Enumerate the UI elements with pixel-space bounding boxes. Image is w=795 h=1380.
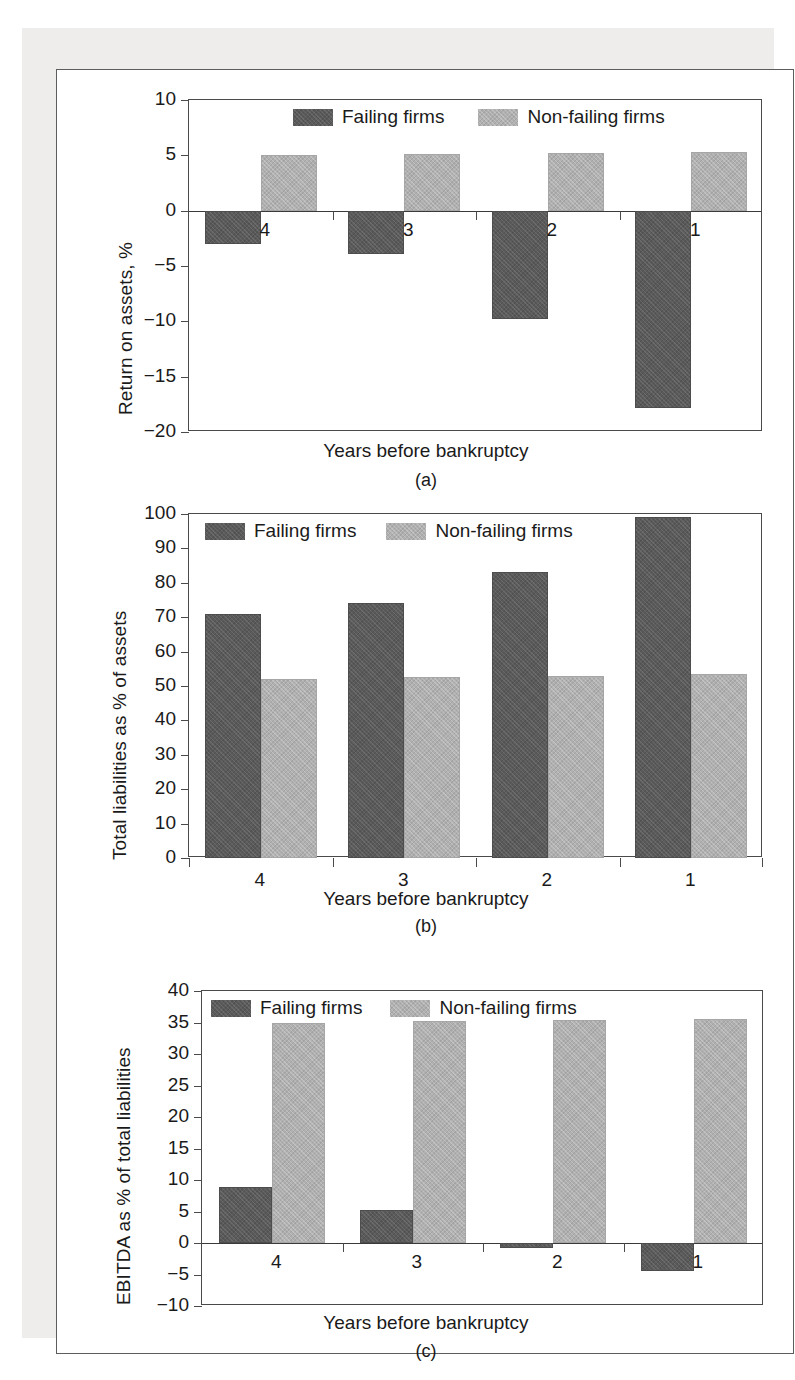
bar-failing-firms-year-2 (492, 572, 548, 858)
bar-failing-firms-year-4 (205, 614, 261, 858)
bar-non-failing-firms-year-4 (261, 679, 317, 858)
x-category-label: 2 (541, 869, 552, 891)
y-tick-mark (194, 1212, 202, 1213)
x-category-label: 2 (552, 1251, 563, 1273)
x-category-label: 3 (411, 1251, 422, 1273)
y-tick-label: 5 (106, 143, 176, 165)
bar-failing-firms-year-2 (500, 1243, 553, 1248)
legend-label-failing: Failing firms (254, 520, 356, 542)
x-category-label: 1 (692, 1251, 703, 1273)
bar-non-failing-firms-year-2 (548, 153, 604, 211)
y-tick-mark (194, 1149, 202, 1150)
x-category-label: 4 (254, 869, 265, 891)
y-tick-mark (194, 1054, 202, 1055)
y-tick-label: 90 (106, 536, 176, 558)
x-axis-label-b: Years before bankruptcy (57, 888, 795, 910)
y-tick-label: 40 (106, 708, 176, 730)
y-tick-mark (181, 824, 189, 825)
y-tick-label: 40 (119, 979, 189, 1001)
legend-swatch-nonfailing-icon (390, 1000, 430, 1017)
legend-label-nonfailing: Non-failing firms (527, 106, 664, 128)
y-tick-mark (194, 1086, 202, 1087)
legend-item-nonfailing-a: Non-failing firms (478, 106, 664, 128)
y-tick-label: 50 (106, 674, 176, 696)
y-tick-mark (194, 1243, 202, 1244)
y-tick-label: 35 (119, 1011, 189, 1033)
legend-swatch-failing-icon (211, 1000, 251, 1017)
legend-label-nonfailing: Non-failing firms (439, 997, 576, 1019)
bar-non-failing-firms-year-4 (261, 155, 317, 210)
bar-non-failing-firms-year-1 (694, 1019, 747, 1243)
x-category-label: 3 (403, 219, 414, 241)
legend-a: Failing firms Non-failing firms (293, 106, 665, 128)
legend-swatch-failing-icon (293, 109, 333, 126)
figure-inner-frame: 4321 Return on assets, % Years before ba… (56, 69, 794, 1354)
panel-b: Total liabilities as % of assets Years b… (57, 488, 795, 920)
bar-failing-firms-year-2 (492, 211, 548, 319)
y-tick-mark (181, 548, 189, 549)
x-category-label: 3 (398, 869, 409, 891)
bar-failing-firms-year-4 (205, 211, 261, 244)
bar-non-failing-firms-year-1 (691, 152, 747, 211)
bar-non-failing-firms-year-1 (691, 674, 747, 858)
bar-non-failing-firms-year-4 (272, 1023, 325, 1244)
plot-area-b (188, 513, 762, 857)
legend-item-failing-b: Failing firms (205, 520, 356, 542)
x-tick-mark (620, 858, 621, 867)
legend-label-failing: Failing firms (342, 106, 444, 128)
x-tick-mark (333, 858, 334, 867)
y-tick-mark (194, 1306, 202, 1307)
panel-caption-c: (c) (57, 1341, 795, 1362)
y-tick-mark (181, 617, 189, 618)
y-tick-mark (181, 583, 189, 584)
y-tick-label: 30 (119, 1042, 189, 1064)
legend-swatch-failing-icon (205, 523, 245, 540)
y-tick-label: 100 (106, 502, 176, 524)
bar-failing-firms-year-3 (348, 603, 404, 858)
y-tick-mark (181, 100, 189, 101)
y-tick-label: 70 (106, 605, 176, 627)
y-tick-label: −10 (106, 309, 176, 331)
legend-label-nonfailing: Non-failing firms (435, 520, 572, 542)
y-tick-label: −20 (106, 420, 176, 442)
bar-non-failing-firms-year-3 (413, 1021, 466, 1243)
bar-failing-firms-year-4 (219, 1187, 272, 1243)
x-tick-mark (624, 1243, 625, 1252)
y-tick-mark (181, 211, 189, 212)
bar-non-failing-firms-year-2 (553, 1020, 606, 1243)
x-tick-mark (620, 211, 621, 220)
y-tick-label: −15 (106, 365, 176, 387)
y-tick-mark (181, 266, 189, 267)
x-category-label: 4 (259, 219, 270, 241)
y-tick-label: 0 (119, 1231, 189, 1253)
y-tick-mark (181, 755, 189, 756)
y-tick-label: 10 (106, 812, 176, 834)
y-tick-mark (181, 155, 189, 156)
bar-non-failing-firms-year-3 (404, 154, 460, 210)
y-tick-mark (181, 377, 189, 378)
y-tick-label: 60 (106, 640, 176, 662)
legend-c: Failing firms Non-failing firms (211, 997, 577, 1019)
y-tick-mark (181, 789, 189, 790)
figure-outer-frame: 4321 Return on assets, % Years before ba… (22, 28, 774, 1338)
legend-b: Failing firms Non-failing firms (205, 520, 573, 542)
y-tick-mark (181, 514, 189, 515)
bar-failing-firms-year-1 (641, 1243, 694, 1271)
legend-item-failing-a: Failing firms (293, 106, 444, 128)
y-tick-label: −10 (119, 1294, 189, 1316)
plot-area-a: 4321 (188, 99, 762, 431)
panel-a: 4321 Return on assets, % Years before ba… (57, 70, 795, 500)
x-tick-mark (762, 858, 763, 867)
y-tick-label: 30 (106, 743, 176, 765)
legend-label-failing: Failing firms (260, 997, 362, 1019)
y-tick-label: 15 (119, 1137, 189, 1159)
y-tick-label: 10 (106, 88, 176, 110)
legend-item-failing-c: Failing firms (211, 997, 362, 1019)
legend-item-nonfailing-c: Non-failing firms (390, 997, 576, 1019)
bar-failing-firms-year-3 (348, 211, 404, 254)
x-category-label: 1 (685, 869, 696, 891)
y-tick-label: 0 (106, 199, 176, 221)
plot-area-c: 4321 (201, 990, 763, 1305)
y-tick-mark (194, 1117, 202, 1118)
y-tick-label: −5 (119, 1263, 189, 1285)
